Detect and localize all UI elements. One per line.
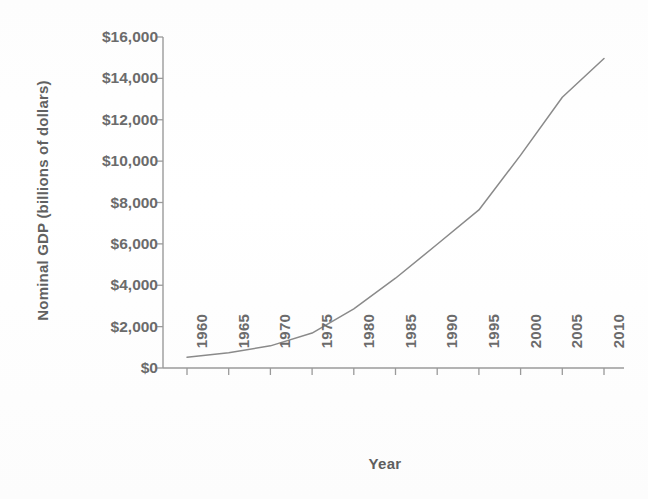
x-tick-label: 1960: [193, 314, 210, 380]
x-tick-label: 2005: [568, 314, 585, 380]
x-tick-label: 2010: [610, 314, 627, 380]
x-tick-label: 2000: [527, 314, 544, 380]
x-tick-label: 1985: [402, 314, 419, 380]
x-axis-tick-labels: 1960196519701975198019851990199520002005…: [0, 0, 648, 499]
x-tick-label: 1965: [235, 314, 252, 380]
x-tick-label: 1975: [318, 314, 335, 380]
gdp-line-chart: Nominal GDP (billions of dollars) $0$2,0…: [0, 0, 648, 499]
x-tick-label: 1995: [485, 314, 502, 380]
x-axis-title: Year: [160, 455, 610, 472]
x-tick-label: 1990: [443, 314, 460, 380]
x-tick-label: 1980: [360, 314, 377, 380]
x-tick-label: 1970: [276, 314, 293, 380]
